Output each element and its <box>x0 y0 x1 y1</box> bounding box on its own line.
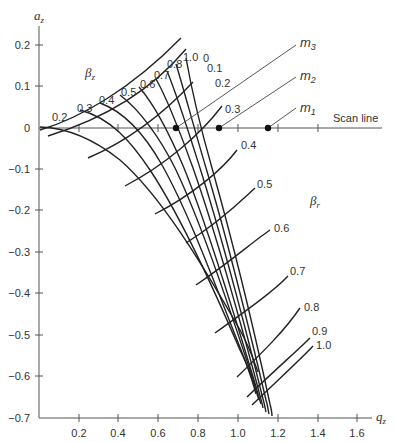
beta-z-label: 0.2 <box>52 111 67 123</box>
operating-point-m1 <box>265 125 271 131</box>
y-tick-label: −0.3 <box>8 246 30 258</box>
x-tick-label: 0.6 <box>150 427 165 439</box>
beta-r-label: 0.6 <box>274 222 289 234</box>
y-tick-label: −0.7 <box>8 412 30 424</box>
x-tick-label: 0.4 <box>110 427 125 439</box>
x-tick-labels: 0.2 0.4 0.6 0.8 1.0 1.2 1.4 1.6 <box>71 427 364 439</box>
y-tick-labels: 0.2 0.1 0 −0.1 −0.2 −0.3 −0.4 −0.5 −0.6 … <box>8 39 30 424</box>
beta-z-label: 0.8 <box>167 58 182 70</box>
m1-line <box>268 108 296 128</box>
y-tick-label: 0.1 <box>15 80 30 92</box>
y-axis-title: az <box>34 8 45 25</box>
beta-r-symbol: βr <box>309 193 320 210</box>
beta-r-label: 0.8 <box>304 301 319 313</box>
m2-label: m2 <box>300 68 316 85</box>
x-tick-label: 1.2 <box>270 427 285 439</box>
beta-z-label: 0.7 <box>154 69 169 81</box>
operating-labels: m3 m2 m1 <box>300 35 316 117</box>
x-tick-label: 0.2 <box>71 427 86 439</box>
x-tick-label: 1.6 <box>349 427 364 439</box>
beta-r-label: 0.9 <box>312 325 327 337</box>
beta-r-label: 0.5 <box>257 178 272 190</box>
beta-z-label: 0.6 <box>140 78 155 90</box>
x-tick-label: 1.4 <box>310 427 325 439</box>
beta-z-label: 1.0 <box>183 51 198 63</box>
scan-line-label: Scan line <box>333 112 378 124</box>
x-axis-title: qz <box>376 409 387 426</box>
x-tick-label: 0.8 <box>190 427 205 439</box>
beta-r-label: 0.1 <box>207 62 222 74</box>
y-tick-label: 0 <box>24 122 30 134</box>
beta-r-label: 0.4 <box>241 139 256 151</box>
y-tick-label: −0.4 <box>8 287 30 299</box>
m1-label: m1 <box>300 100 316 117</box>
y-tick-label: −0.1 <box>8 163 30 175</box>
y-tick-label: −0.6 <box>8 370 30 382</box>
beta-z-label: 0.4 <box>99 94 114 106</box>
y-tick-label: 0.2 <box>15 39 30 51</box>
operating-point-m3 <box>173 125 179 131</box>
m3-label: m3 <box>300 35 316 52</box>
y-tick-label: −0.5 <box>8 329 30 341</box>
beta-z-symbol: βz <box>84 65 95 82</box>
y-tick-label: −0.2 <box>8 204 30 216</box>
beta-r-label: 0.3 <box>225 103 240 115</box>
beta-z-label: 0.3 <box>77 102 92 114</box>
operating-point-m2 <box>216 125 222 131</box>
beta-r-label: 0.7 <box>290 265 305 277</box>
beta-z-label: 0.5 <box>121 86 136 98</box>
beta-r-label: 0.2 <box>215 77 230 89</box>
beta-r-label: 1.0 <box>316 339 331 351</box>
beta-z-labels: 0.2 0.3 0.4 0.5 0.6 0.7 0.8 1.0 <box>52 51 198 123</box>
stability-diagram: 0.2 0.1 0 −0.1 −0.2 −0.3 −0.4 −0.5 −0.6 … <box>0 0 396 442</box>
x-tick-label: 1.0 <box>230 427 245 439</box>
axes: 0.2 0.1 0 −0.1 −0.2 −0.3 −0.4 −0.5 −0.6 … <box>8 8 386 439</box>
